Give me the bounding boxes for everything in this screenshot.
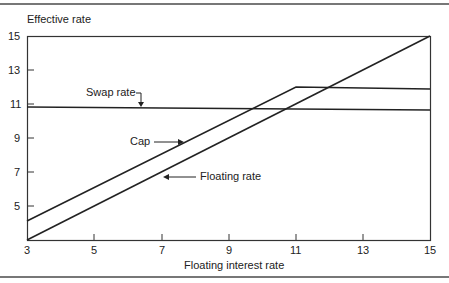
y-tick-15: 15 [8,30,20,42]
x-tick-11: 11 [290,244,301,256]
y-tick-7: 7 [14,166,20,178]
y-tick-9: 9 [14,132,20,144]
x-tick-5: 5 [91,244,97,256]
y-ticks [28,70,34,206]
x-axis-title: Floating interest rate [184,259,284,271]
x-ticks [94,234,363,240]
x-tick-3: 3 [24,244,30,256]
floating-rate-line [27,36,430,240]
y-tick-13: 13 [8,64,20,76]
floating-arrow-head [163,174,169,180]
y-tick-11: 11 [10,98,21,110]
x-tick-9: 9 [226,244,232,256]
floating-rate-label: Floating rate [200,170,261,182]
swap-rate-line [27,107,430,110]
swap-arrow-head [138,102,144,107]
swap-rate-label: Swap rate [86,86,136,98]
x-tick-7: 7 [159,244,165,256]
x-tick-15: 15 [424,244,436,256]
chart-canvas [0,0,449,283]
y-axis-title: Effective rate [27,13,91,25]
y-tick-5: 5 [14,200,20,212]
x-tick-13: 13 [357,244,369,256]
cap-label: Cap [130,135,150,147]
